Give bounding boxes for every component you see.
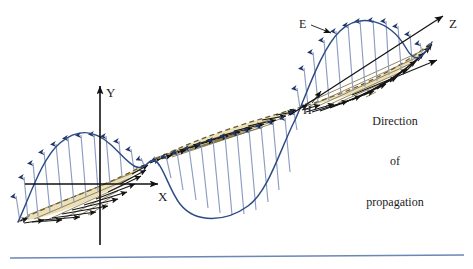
y-axis-label: Y bbox=[106, 86, 115, 101]
h-field-label: H bbox=[303, 104, 312, 117]
propagation-line-1: Direction bbox=[352, 115, 438, 128]
z-axis-label: Z bbox=[449, 17, 457, 32]
propagation-label: Direction of propagation bbox=[352, 88, 438, 236]
em-wave-figure: Y X Z E H Direction of propagation bbox=[0, 0, 473, 269]
x-axis-label: X bbox=[158, 190, 167, 205]
propagation-line-2: of bbox=[352, 155, 438, 168]
propagation-line-3: propagation bbox=[352, 196, 438, 209]
e-field-label: E bbox=[299, 18, 306, 31]
e-label-leader bbox=[311, 25, 331, 33]
bottom-rule bbox=[10, 255, 464, 258]
